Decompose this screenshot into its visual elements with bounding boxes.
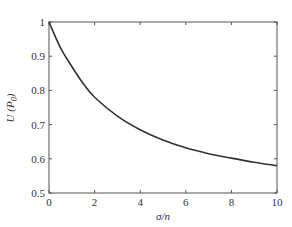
data-line xyxy=(49,22,277,166)
y-tick-labels: 0.50.60.70.80.91 xyxy=(31,16,45,199)
y-axis-label: U (P0) xyxy=(4,93,19,122)
plot-frame xyxy=(49,22,277,193)
y-tick-label: 0.5 xyxy=(31,187,45,199)
y-tick-label: 0.7 xyxy=(31,119,45,131)
x-tick-label: 6 xyxy=(183,196,189,208)
chart: 0246810 0.50.60.70.80.91 σ/n U (P0) xyxy=(0,0,292,227)
x-tick-label: 0 xyxy=(46,196,52,208)
x-tick-label: 2 xyxy=(92,196,98,208)
y-tick-label: 0.9 xyxy=(31,50,45,62)
x-tick-labels: 0246810 xyxy=(46,196,283,208)
y-tick-label: 0.8 xyxy=(31,84,45,96)
x-axis-label: σ/n xyxy=(156,210,170,222)
x-tick-label: 8 xyxy=(229,196,235,208)
x-tick-label: 4 xyxy=(137,196,143,208)
y-tick-label: 0.6 xyxy=(31,153,45,165)
x-tick-label: 10 xyxy=(272,196,284,208)
axis-ticks xyxy=(49,22,277,193)
y-tick-label: 1 xyxy=(40,16,46,28)
